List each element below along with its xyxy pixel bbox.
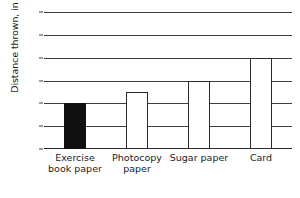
x-axis-label: Card bbox=[230, 152, 292, 163]
y-axis-tick bbox=[39, 126, 43, 127]
cropped-footer-text bbox=[2, 189, 94, 194]
y-axis-tick bbox=[39, 103, 43, 104]
y-axis-tick bbox=[39, 149, 43, 150]
bar bbox=[64, 103, 86, 149]
x-axis-label: Sugar paper bbox=[168, 152, 230, 163]
y-axis-tick bbox=[39, 34, 43, 35]
bar bbox=[250, 58, 272, 149]
y-axis-tick bbox=[39, 57, 43, 58]
y-axis-tick bbox=[39, 80, 43, 81]
plot-area: 0123456 bbox=[44, 12, 292, 149]
x-axis-label: Exercise book paper bbox=[44, 152, 106, 174]
y-axis-title: Distance thrown, in m bbox=[9, 0, 20, 112]
bar bbox=[188, 81, 210, 150]
bar bbox=[126, 92, 148, 149]
gridline bbox=[44, 35, 292, 36]
bar-chart: Distance thrown, in m 0123456 Exercise b… bbox=[0, 0, 300, 198]
x-axis-label: Photocopy paper bbox=[106, 152, 168, 174]
gridline bbox=[44, 12, 292, 13]
y-axis-tick bbox=[39, 12, 43, 13]
